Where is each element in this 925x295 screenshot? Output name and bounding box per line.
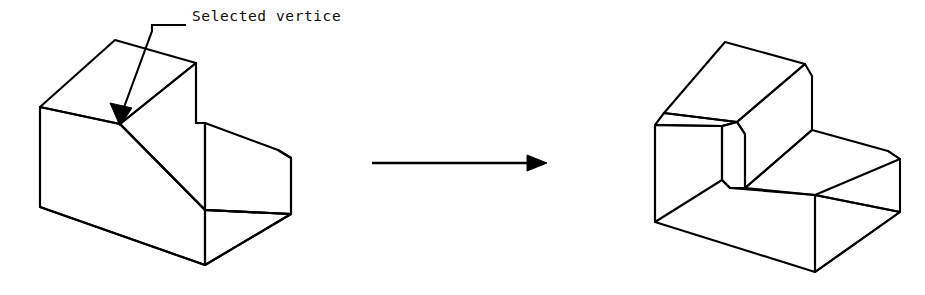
cad-chamfer-diagram: Selected vertice — [0, 0, 925, 295]
selected-vertex-label: Selected vertice — [192, 8, 341, 24]
diagram-canvas: Selected vertice — [0, 0, 925, 295]
